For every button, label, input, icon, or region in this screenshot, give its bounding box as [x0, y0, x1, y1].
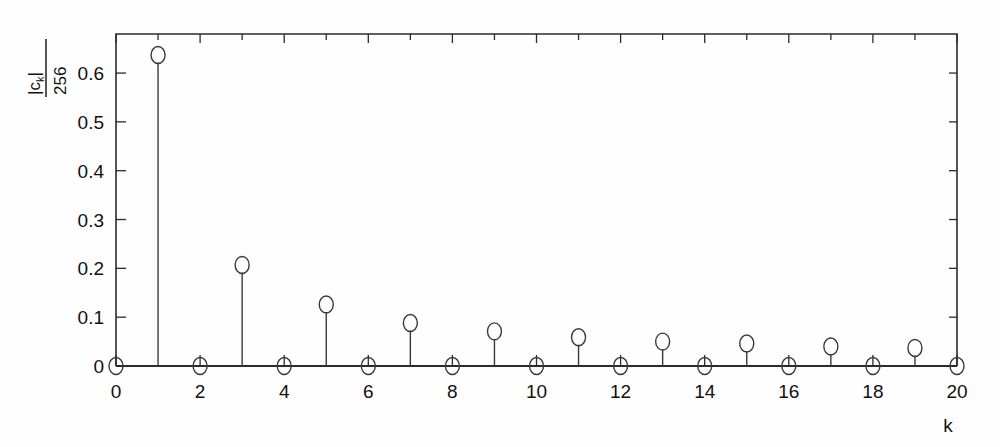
- y-axis-tick-label: 0.2: [78, 258, 104, 279]
- stem-point: [824, 338, 838, 366]
- stem-marker: [824, 338, 838, 355]
- x-axis-tick-label: 18: [862, 381, 883, 402]
- tick-labels-layer: 0246810121416182000.10.20.30.40.50.6: [78, 63, 968, 402]
- y-axis-tick-label: 0.6: [78, 63, 104, 84]
- y-axis-tick-label: 0.5: [78, 112, 104, 133]
- x-axis-tick-label: 4: [279, 381, 290, 402]
- x-axis-tick-label: 8: [447, 381, 458, 402]
- stem-marker: [740, 335, 754, 352]
- stem-point: [319, 296, 333, 366]
- y-axis-tick-label: 0.3: [78, 210, 104, 231]
- stem-marker: [656, 333, 670, 350]
- stem-marker: [487, 323, 501, 340]
- figure-container: 0246810121416182000.10.20.30.40.50.6 |ck…: [0, 0, 1000, 447]
- stem-marker: [908, 339, 922, 356]
- stem-marker: [403, 315, 417, 332]
- stem-point: [656, 333, 670, 366]
- stem-marker: [572, 329, 586, 346]
- y-axis-tick-label: 0: [93, 356, 104, 377]
- x-axis-label: k: [943, 415, 953, 436]
- x-axis-tick-label: 20: [946, 381, 967, 402]
- stem-plot: 0246810121416182000.10.20.30.40.50.6 |ck…: [0, 0, 1000, 447]
- x-axis-tick-label: 12: [610, 381, 631, 402]
- stem-marker: [319, 296, 333, 313]
- y-axis-label-numerator: |ck|: [25, 72, 46, 95]
- x-axis-tick-label: 0: [111, 381, 122, 402]
- y-axis-tick-label: 0.1: [78, 307, 104, 328]
- x-axis-tick-label: 2: [195, 381, 206, 402]
- stem-point: [740, 335, 754, 366]
- x-axis-tick-label: 6: [363, 381, 374, 402]
- y-axis-tick-label: 0.4: [78, 161, 105, 182]
- stem-point: [487, 323, 501, 366]
- stems-layer: [109, 46, 964, 374]
- y-axis-label: |ck| 256: [25, 39, 70, 97]
- stem-marker: [151, 46, 165, 63]
- x-axis-tick-label: 16: [778, 381, 799, 402]
- stem-point: [403, 315, 417, 366]
- stem-point: [151, 46, 165, 366]
- x-axis-tick-label: 10: [526, 381, 547, 402]
- stem-point: [572, 329, 586, 366]
- stem-point: [908, 339, 922, 366]
- stem-marker: [235, 256, 249, 273]
- x-axis-tick-label: 14: [694, 381, 716, 402]
- stem-point: [235, 256, 249, 366]
- y-axis-label-denominator: 256: [51, 67, 70, 95]
